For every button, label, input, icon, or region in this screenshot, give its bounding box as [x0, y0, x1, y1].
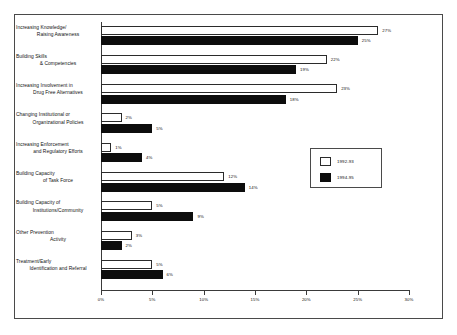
x-axis-tick-label: 20%	[302, 297, 311, 302]
x-axis-tick	[204, 290, 205, 295]
x-axis-tick	[306, 290, 307, 295]
bar-0	[101, 143, 111, 152]
chart-legend: 1992-931994-95	[310, 148, 382, 188]
category-label: Building Skills& Competencies	[16, 53, 100, 67]
bar-0	[101, 55, 327, 64]
category-label-line2: Institutions/Community	[16, 207, 100, 214]
bar-value-label: 5%	[156, 124, 162, 133]
x-axis-tick-label: 25%	[353, 297, 362, 302]
bar-value-label: 5%	[156, 260, 162, 269]
bar-value-label: 9%	[197, 212, 203, 221]
category-label: Increasing Enforcementand Regulatory Eff…	[16, 141, 100, 155]
category-label-line2: of Task Force	[16, 177, 100, 184]
bar-value-label: 12%	[228, 172, 237, 181]
bar-1	[101, 241, 122, 250]
bar-value-label: 5%	[156, 201, 162, 210]
category-label-line1: Increasing Involvement in	[16, 82, 100, 89]
bar-value-label: 2%	[126, 113, 132, 122]
x-axis-tick-label: 5%	[149, 297, 155, 302]
x-axis-tick-label: 0%	[98, 297, 104, 302]
category-label: Increasing Involvement inDrug Free Alter…	[16, 82, 100, 96]
category-label-line2: and Regulatory Efforts	[16, 148, 100, 155]
bar-0	[101, 231, 132, 240]
bar-1	[101, 183, 245, 192]
bar-0	[101, 113, 122, 122]
category-label-line1: Increasing Knowledge/	[16, 24, 100, 31]
x-axis-tick	[255, 290, 256, 295]
x-axis-tick-label: 15%	[251, 297, 260, 302]
bar-value-label: 25%	[362, 36, 371, 45]
category-label: Building Capacity ofInstitutions/Communi…	[16, 199, 100, 213]
x-axis-tick-label: 30%	[405, 297, 414, 302]
bar-value-label: 6%	[167, 270, 173, 279]
category-label-line1: Building Capacity of	[16, 199, 100, 206]
bar-value-label: 22%	[331, 55, 340, 64]
bar-1	[101, 124, 152, 133]
category-label-line1: Increasing Enforcement	[16, 141, 100, 148]
bar-value-label: 4%	[146, 153, 152, 162]
bar-1	[101, 95, 286, 104]
category-label-line2: Identification and Referral	[16, 265, 100, 272]
category-label-line2: Organizational Policies	[16, 119, 100, 126]
bar-value-label: 23%	[341, 84, 350, 93]
category-label-line2: Activity	[16, 236, 100, 243]
x-axis-tick	[358, 290, 359, 295]
bar-0	[101, 260, 152, 269]
bar-0	[101, 201, 152, 210]
bar-0	[101, 84, 337, 93]
bar-value-label: 2%	[126, 241, 132, 250]
x-axis-tick	[152, 290, 153, 295]
bar-1	[101, 153, 142, 162]
bar-value-label: 27%	[382, 26, 391, 35]
category-label: Changing Institutional orOrganizational …	[16, 111, 100, 125]
bar-0	[101, 26, 378, 35]
x-axis-tick-label: 10%	[199, 297, 208, 302]
bar-1	[101, 65, 296, 74]
category-label-line2: Raising Awareness	[16, 31, 100, 38]
legend-label: 1994-95	[337, 173, 354, 182]
category-label-line1: Other Prevention	[16, 229, 100, 236]
category-label-line1: Building Capacity	[16, 170, 100, 177]
category-label: Treatment/EarlyIdentification and Referr…	[16, 258, 100, 272]
bar-value-label: 19%	[300, 65, 309, 74]
category-label: Increasing Knowledge/Raising Awareness	[16, 24, 100, 38]
bar-value-label: 1%	[115, 143, 121, 152]
category-label-line2: Drug Free Alternatives	[16, 89, 100, 96]
legend-label: 1992-93	[337, 157, 354, 166]
bar-chart-figure: 0%5%10%15%20%25%30% Increasing Knowledge…	[0, 0, 457, 335]
category-label: Building Capacityof Task Force	[16, 170, 100, 184]
category-label-line2: & Competencies	[16, 60, 100, 67]
category-label-line1: Building Skills	[16, 53, 100, 60]
bar-1	[101, 270, 163, 279]
x-axis-tick	[409, 290, 410, 295]
bar-1	[101, 212, 193, 221]
open-square-swatch	[320, 157, 331, 166]
bar-1	[101, 36, 358, 45]
bar-value-label: 14%	[249, 183, 258, 192]
category-label-line1: Changing Institutional or	[16, 111, 100, 118]
bar-0	[101, 172, 224, 181]
bar-value-label: 18%	[290, 95, 299, 104]
x-axis-tick	[101, 290, 102, 295]
category-label: Other PreventionActivity	[16, 229, 100, 243]
filled-square-swatch	[320, 173, 331, 182]
category-label-line1: Treatment/Early	[16, 258, 100, 265]
bar-value-label: 3%	[136, 231, 142, 240]
